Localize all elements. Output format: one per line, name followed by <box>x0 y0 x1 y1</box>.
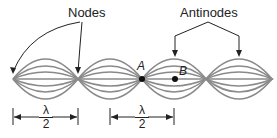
point-a-label: A <box>137 59 145 73</box>
antinodes-label: Antinodes <box>180 5 238 20</box>
arrowhead-icon <box>75 67 81 74</box>
antinodes-arrows <box>175 22 239 54</box>
half-wavelength-label-1: λ 2 <box>39 104 53 131</box>
arrowhead-icon <box>236 50 242 57</box>
nodes-label: Nodes <box>68 5 106 20</box>
half-wavelength-label-2: λ 2 <box>135 104 149 131</box>
point-b-dot <box>172 76 178 82</box>
point-a-dot <box>139 76 145 82</box>
arrowhead-icon <box>172 50 178 57</box>
point-b-label: B <box>179 64 187 78</box>
nodes-arrows <box>13 22 82 72</box>
arrowhead-icon <box>10 67 16 74</box>
